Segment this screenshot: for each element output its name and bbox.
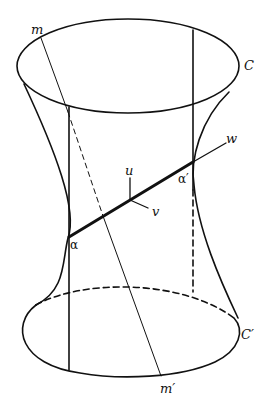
label-v: v [152,204,160,219]
label-alpha: α [70,238,78,252]
axis-v [130,200,148,208]
right-silhouette [193,92,238,318]
label-c-prime: C′ [241,327,254,342]
top-circle [17,19,239,113]
label-m-prime: m′ [160,381,175,396]
bottom-circle-front [23,305,240,377]
label-m: m [31,22,43,37]
label-alpha-prime: α′ [178,172,189,186]
label-u: u [125,163,133,178]
hyperboloid-diagram: m C w u v α′ α C′ m′ [0,0,270,406]
line-m-middle [68,112,103,216]
line-m-bottom [103,216,161,376]
bottom-circle-back [36,287,234,318]
left-silhouette [24,84,70,305]
label-c: C [244,58,254,73]
label-w: w [226,131,237,146]
